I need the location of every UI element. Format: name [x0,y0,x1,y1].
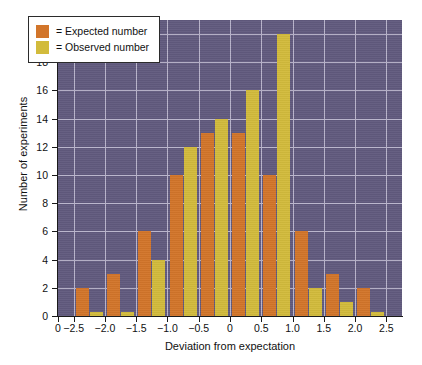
bar-expected [295,231,308,316]
bar-expected [263,175,276,316]
bar-observed [152,260,165,316]
legend-item-observed: = Observed number [36,40,149,55]
y-tick-mark [52,231,57,232]
bar-expected [232,133,245,316]
y-tick-mark [52,288,57,289]
bar-expected [357,288,370,316]
bar-observed [184,147,197,316]
x-tick-label-text: 2.5 [366,322,406,335]
y-tick-label-text: 0 [0,311,48,321]
x-tick-label: 2.5 [366,322,406,335]
y-tick-mark [52,203,57,204]
bar-series-container [58,20,402,316]
x-axis-title: Deviation from expectation [58,340,402,352]
x-tick-mark [293,317,294,322]
x-tick-mark [230,317,231,322]
y-axis-line [57,20,58,317]
legend-label-expected: = Expected number [56,25,147,38]
y-tick-mark [52,316,57,317]
x-tick-mark [324,317,325,322]
chart-legend: = Expected number = Observed number [28,16,160,63]
bar-expected [76,288,89,316]
y-tick-mark [52,90,57,91]
x-tick-mark [199,317,200,322]
bar-expected [326,274,339,316]
chart-figure: 02468101214161820 0−2.5−2.0−1.5−1.0−0.50… [0,0,422,365]
y-axis-title: Number of experiments [17,39,29,269]
x-tick-mark [355,317,356,322]
x-tick-mark [58,317,59,322]
y-tick-label: 0 [0,311,48,321]
bar-expected [170,175,183,316]
y-tick-label-text: 2 [0,283,48,293]
bar-expected [138,231,151,316]
y-tick-mark [52,119,57,120]
bar-observed [277,34,290,316]
x-tick-mark [167,317,168,322]
bar-observed [309,288,322,316]
bar-observed [215,119,228,316]
bar-observed [340,302,353,316]
x-tick-mark [74,317,75,322]
bar-expected [201,133,214,316]
expected-swatch-icon [36,25,49,38]
x-tick-mark [105,317,106,322]
legend-item-expected: = Expected number [36,24,149,39]
legend-label-observed: = Observed number [56,41,149,54]
plot-area [58,20,402,316]
bar-expected [107,274,120,316]
bar-observed [246,90,259,316]
y-tick-mark [52,175,57,176]
x-tick-mark [261,317,262,322]
x-tick-mark [386,317,387,322]
y-tick-mark [52,147,57,148]
observed-swatch-icon [36,41,49,54]
y-tick-label: 2 [0,283,48,293]
x-tick-mark [136,317,137,322]
y-tick-mark [52,260,57,261]
